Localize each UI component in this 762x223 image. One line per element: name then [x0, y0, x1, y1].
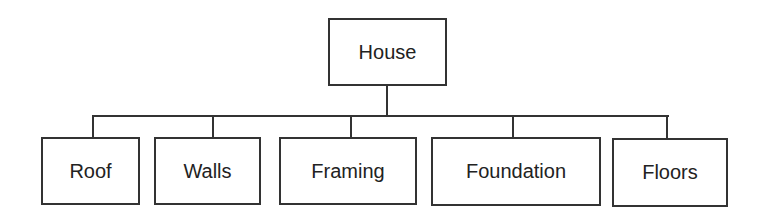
node-label: Walls [183, 160, 231, 183]
connector-floors [666, 115, 668, 139]
node-label: Roof [69, 160, 111, 183]
connector-foundation [512, 115, 514, 138]
connector-root-vertical [386, 85, 388, 117]
node-roof: Roof [41, 137, 140, 205]
node-house: House [328, 18, 447, 86]
node-floors: Floors [612, 138, 728, 207]
connector-horizontal-bus [92, 115, 669, 117]
node-framing: Framing [279, 137, 417, 205]
node-label: Framing [311, 160, 384, 183]
connector-walls [212, 115, 214, 138]
node-label: House [359, 41, 417, 64]
connector-roof [92, 115, 94, 138]
connector-framing [350, 115, 352, 138]
node-label: Floors [642, 161, 698, 184]
node-foundation: Foundation [431, 137, 601, 206]
node-walls: Walls [154, 137, 261, 205]
node-label: Foundation [466, 160, 566, 183]
